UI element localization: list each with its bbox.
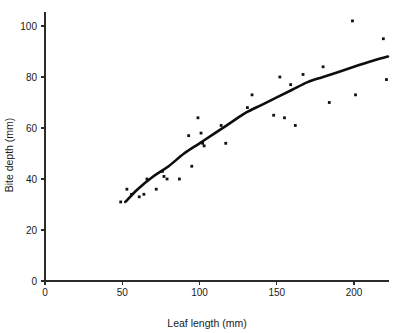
data-point <box>322 65 325 68</box>
data-point <box>178 178 181 181</box>
data-point <box>155 188 158 191</box>
data-point <box>328 101 331 104</box>
data-point <box>283 116 286 119</box>
data-point <box>354 93 357 96</box>
x-axis-ticks: 050100150200 <box>42 281 363 298</box>
x-tick-label: 100 <box>191 287 208 298</box>
x-tick-label: 0 <box>42 287 48 298</box>
chart-container: 020406080100 050100150200 Leaf length (m… <box>0 0 395 333</box>
data-point <box>190 165 193 168</box>
data-point <box>166 178 169 181</box>
x-tick-label: 200 <box>346 287 363 298</box>
scatter-plot: 020406080100 050100150200 Leaf length (m… <box>0 0 395 333</box>
data-point <box>119 201 122 204</box>
data-point <box>125 188 128 191</box>
x-tick-label: 150 <box>268 287 285 298</box>
data-point <box>289 83 292 86</box>
data-point <box>142 193 145 196</box>
data-point <box>385 78 388 81</box>
data-point <box>220 124 223 127</box>
data-point <box>203 144 206 147</box>
y-tick-label: 0 <box>31 276 37 287</box>
y-tick-label: 40 <box>26 174 38 185</box>
data-point <box>163 175 166 178</box>
y-tick-label: 100 <box>20 21 37 32</box>
fitted-curve <box>125 57 388 202</box>
y-tick-label: 80 <box>26 72 38 83</box>
data-points-layer <box>119 20 388 204</box>
x-axis-label: Leaf length (mm) <box>167 317 246 329</box>
x-tick-label: 50 <box>117 287 129 298</box>
data-point <box>224 142 227 145</box>
data-point <box>246 106 249 109</box>
data-point <box>197 116 200 119</box>
data-point <box>302 73 305 76</box>
y-axis-ticks: 020406080100 <box>20 21 45 287</box>
data-point <box>187 134 190 137</box>
data-point <box>272 114 275 117</box>
data-point <box>138 195 141 198</box>
data-point <box>251 93 254 96</box>
data-point <box>351 20 354 23</box>
y-tick-label: 60 <box>26 123 38 134</box>
data-point <box>294 124 297 127</box>
data-point <box>382 37 385 40</box>
data-point <box>200 132 203 135</box>
y-tick-label: 20 <box>26 225 38 236</box>
y-axis-label: Bite depth (mm) <box>3 118 15 193</box>
data-point <box>278 76 281 79</box>
